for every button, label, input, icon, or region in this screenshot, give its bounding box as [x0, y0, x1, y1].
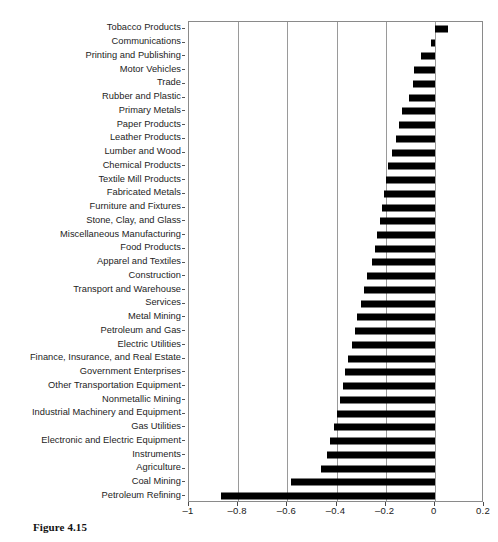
bar [221, 493, 435, 500]
bar [348, 355, 435, 362]
bar [340, 396, 435, 403]
x-axis-tick-label: –0.6 [277, 505, 296, 516]
bar-row [189, 366, 482, 380]
bar-row [189, 407, 482, 421]
bar [382, 204, 435, 211]
x-axis-tick-label: –0.8 [228, 505, 247, 516]
bar [414, 67, 435, 74]
bar [409, 94, 435, 101]
category-axis-tick [182, 69, 185, 70]
category-label: Furniture and Fixtures [90, 201, 181, 211]
bar [399, 122, 435, 129]
category-axis-tick [182, 275, 185, 276]
bar [321, 465, 435, 472]
bar [364, 286, 435, 293]
category-axis-tick [182, 193, 185, 194]
bar-row [189, 104, 482, 118]
category-label: Other Transportation Equipment [48, 380, 181, 390]
category-axis-tick [182, 165, 185, 166]
bar [392, 149, 435, 156]
category-axis-tick [182, 55, 185, 56]
category-axis-tick [182, 220, 185, 221]
category-label: Printing and Publishing [85, 50, 181, 60]
bar-row [189, 22, 482, 36]
bar-row [189, 242, 482, 256]
category-label: Apparel and Textiles [97, 256, 181, 266]
bar [431, 39, 435, 46]
category-label: Transport and Warehouse [73, 284, 181, 294]
category-label: Lumber and Wood [104, 146, 181, 156]
bar [330, 438, 434, 445]
bar-row [189, 201, 482, 215]
category-axis-tick [182, 83, 185, 84]
bar-row [189, 311, 482, 325]
bar-row [189, 324, 482, 338]
category-label: Agriculture [136, 462, 181, 472]
category-axis-tick [182, 179, 185, 180]
bar [413, 80, 435, 87]
bar-row [189, 49, 482, 63]
bar-row [189, 256, 482, 270]
bar-row [189, 393, 482, 407]
bar-row [189, 36, 482, 50]
category-label: Leather Products [110, 132, 181, 142]
bar [421, 53, 435, 60]
bar-row [189, 187, 482, 201]
category-axis-tick [182, 495, 185, 496]
bar-row [189, 448, 482, 462]
category-label: Communications [111, 36, 181, 46]
bar [361, 300, 435, 307]
bar-series [189, 22, 482, 501]
category-label: Rubber and Plastic [102, 91, 181, 101]
category-axis-tick [182, 426, 185, 427]
category-axis-tick [182, 138, 185, 139]
bar-row [189, 434, 482, 448]
category-axis-tick [182, 344, 185, 345]
bar [375, 245, 435, 252]
category-label: Services [145, 297, 181, 307]
bar-row [189, 228, 482, 242]
bar [396, 135, 435, 142]
bar-row [189, 379, 482, 393]
category-axis-tick [182, 454, 185, 455]
bar-row [189, 173, 482, 187]
figure-container: Tobacco ProductsCommunicationsPrinting a… [0, 0, 498, 542]
category-label: Fabricated Metals [107, 187, 181, 197]
bar [377, 231, 435, 238]
bar-row [189, 77, 482, 91]
category-axis-tick [182, 358, 185, 359]
bar [435, 25, 449, 32]
bar [388, 163, 435, 170]
category-axis-tick [182, 385, 185, 386]
category-label: Metal Mining [128, 311, 181, 321]
category-label: Primary Metals [119, 105, 181, 115]
category-label: Motor Vehicles [120, 64, 181, 74]
category-label: Textile Mill Products [98, 174, 181, 184]
category-label: Finance, Insurance, and Real Estate [30, 352, 181, 362]
bar [386, 177, 435, 184]
bar-row [189, 269, 482, 283]
category-label: Government Enterprises [80, 366, 181, 376]
bar-row [189, 476, 482, 490]
category-axis-tick [182, 124, 185, 125]
category-axis-tick [182, 28, 185, 29]
category-label: Industrial Machinery and Equipment [32, 407, 181, 417]
bar [334, 424, 435, 431]
category-label: Food Products [120, 242, 181, 252]
plot-area [188, 21, 483, 502]
bar-row [189, 489, 482, 503]
category-axis-tick [182, 303, 185, 304]
bar-row [189, 421, 482, 435]
category-axis-tick [182, 316, 185, 317]
category-axis-tick [182, 440, 185, 441]
bar-row [189, 159, 482, 173]
category-axis-tick [182, 413, 185, 414]
bar-row [189, 146, 482, 160]
category-label: Construction [129, 270, 181, 280]
category-label: Chemical Products [103, 160, 181, 170]
category-label: Instruments [132, 449, 181, 459]
category-label: Electronic and Electric Equipment [41, 435, 181, 445]
category-axis-tick [182, 289, 185, 290]
bar [355, 328, 435, 335]
category-axis-tick [182, 371, 185, 372]
